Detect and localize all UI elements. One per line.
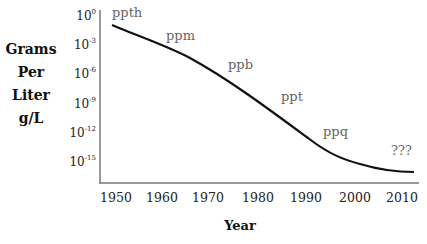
x-tick: 1980 <box>242 190 274 205</box>
annotation-ppb: ppb <box>228 57 253 72</box>
data-line <box>112 25 414 172</box>
annotation-ppm: ppm <box>166 28 195 43</box>
annotation-ppth: ppth <box>112 5 143 20</box>
annotation-unknown: ??? <box>391 143 412 158</box>
plot-area: ppth ppm ppb ppt ppq ??? <box>0 0 427 244</box>
x-axis-label: Year <box>224 218 256 233</box>
x-tick: 1960 <box>146 190 178 205</box>
x-tick: 1990 <box>290 190 322 205</box>
x-tick: 2010 <box>386 190 418 205</box>
x-tick: 1950 <box>100 190 132 205</box>
annotation-ppt: ppt <box>281 89 304 104</box>
x-tick: 2000 <box>339 190 371 205</box>
annotation-ppq: ppq <box>323 124 348 139</box>
x-tick: 1970 <box>192 190 224 205</box>
